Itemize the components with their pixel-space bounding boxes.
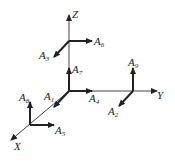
- label-a7: A7: [71, 63, 83, 77]
- label-a3: A3: [38, 49, 50, 63]
- y-axis-label: Y: [157, 89, 165, 101]
- label-a5: A5: [54, 124, 66, 138]
- vector-a2-arrow: [119, 91, 133, 106]
- main-axes: [11, 15, 157, 140]
- coordinate-diagram: Z Y X A6 A3 A7 A9 A1 A4 A2 A8 A5: [0, 0, 175, 162]
- z-axis-label: Z: [72, 8, 79, 20]
- label-a9: A9: [127, 56, 139, 70]
- label-a4: A4: [88, 92, 100, 106]
- label-a1: A1: [43, 90, 54, 104]
- x-axis-label: X: [13, 140, 22, 152]
- vector-a3-arrow: [54, 41, 69, 57]
- label-a2: A2: [107, 105, 119, 119]
- label-a6: A6: [93, 35, 105, 49]
- vector-a1-arrow: [54, 91, 69, 107]
- label-a8: A8: [18, 91, 30, 105]
